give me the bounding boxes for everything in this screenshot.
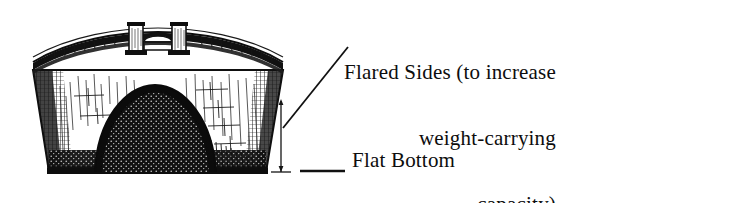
figure-root: Flared Sides (to increase weight-carryin… <box>0 0 754 203</box>
flared-sides-annotation-line-3: capacity) <box>344 194 556 203</box>
flared-sides-annotation-line-1: Flared Sides (to increase <box>344 62 556 86</box>
smokestack-left-cap <box>127 22 145 26</box>
smokestack-left-base <box>125 50 147 55</box>
flared-sides-annotation: Flared Sides (to increase weight-carryin… <box>344 20 556 203</box>
dimension-arrow-top <box>279 99 284 105</box>
smokestack-right <box>170 22 188 52</box>
flared-sides-leader-line <box>283 47 348 128</box>
flat-bottom-annotation: Flat Bottom <box>352 150 455 171</box>
smokestack-left <box>127 22 145 52</box>
smokestack-right-cap <box>170 22 188 26</box>
smokestack-right-base <box>168 50 190 55</box>
deck-structure <box>33 28 283 74</box>
dimension-arrow-bottom <box>279 166 284 172</box>
